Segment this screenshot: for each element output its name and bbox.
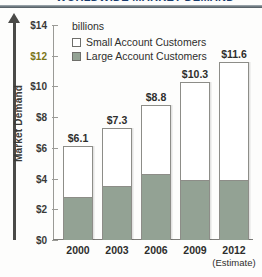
x-label-text-2012: 2012 [222, 244, 245, 256]
bar-segment-large-2000 [64, 197, 92, 240]
bar-value-2012: $11.6 [221, 48, 247, 60]
bar-value-2000: $6.1 [68, 132, 88, 144]
x-label-text-2000: 2000 [66, 244, 89, 256]
bar-segment-large-2006 [142, 174, 170, 240]
bar-2012: $11.6 [219, 62, 249, 240]
y-tick-label-2: $2 [36, 204, 47, 215]
x-tick-label-2006: 2006 [144, 244, 167, 256]
bar-2006: $8.8 [141, 105, 171, 240]
y-tick-0: $0 [52, 240, 58, 241]
x-label-text-2009: 2009 [183, 244, 206, 256]
y-tick-label-10: $10 [30, 81, 47, 92]
bar-segment-large-2012 [220, 180, 248, 240]
bar-segment-large-2009 [181, 180, 209, 240]
bar-value-2003: $7.3 [107, 114, 127, 126]
bar-value-2009: $10.3 [182, 68, 208, 80]
x-tick-label-2003: 2003 [105, 244, 128, 256]
y-tick-label-6: $6 [36, 142, 47, 153]
chart-title: WORLDWIDE MARKET DEMAND [56, 0, 235, 3]
y-tick-label-14: $14 [30, 20, 47, 31]
bar-series-group: $6.1 2000 $7.3 2003 $8.8 [53, 20, 253, 240]
x-tick-label-2000: 2000 [66, 244, 89, 256]
y-tick-label-12: $12 [30, 50, 47, 61]
plot-area: $14 $12 $10 $8 $6 $4 $2 $0 billions Smal… [53, 20, 253, 240]
title-divider-rule [0, 5, 262, 8]
y-tick-label-0: $0 [36, 235, 47, 246]
x-tick-label-2009: 2009 [183, 244, 206, 256]
bar-2000: $6.1 [63, 146, 93, 240]
bar-value-2006: $8.8 [146, 91, 166, 103]
bar-2009: $10.3 [180, 82, 210, 240]
x-tick-label-2012: 2012 (Estimate) [212, 244, 255, 268]
x-label-text-2003: 2003 [105, 244, 128, 256]
bar-segment-large-2003 [103, 186, 131, 240]
x-label-note-2012: (Estimate) [212, 257, 255, 268]
bar-2003: $7.3 [102, 128, 132, 240]
chart-container: WORLDWIDE MARKET DEMAND Market Demand $1… [0, 0, 262, 277]
y-tick-label-4: $4 [36, 173, 47, 184]
x-label-text-2006: 2006 [144, 244, 167, 256]
y-axis-title: Market Demand [13, 54, 24, 194]
chart-title-banner: WORLDWIDE MARKET DEMAND [0, 0, 262, 9]
y-tick-label-8: $8 [36, 112, 47, 123]
